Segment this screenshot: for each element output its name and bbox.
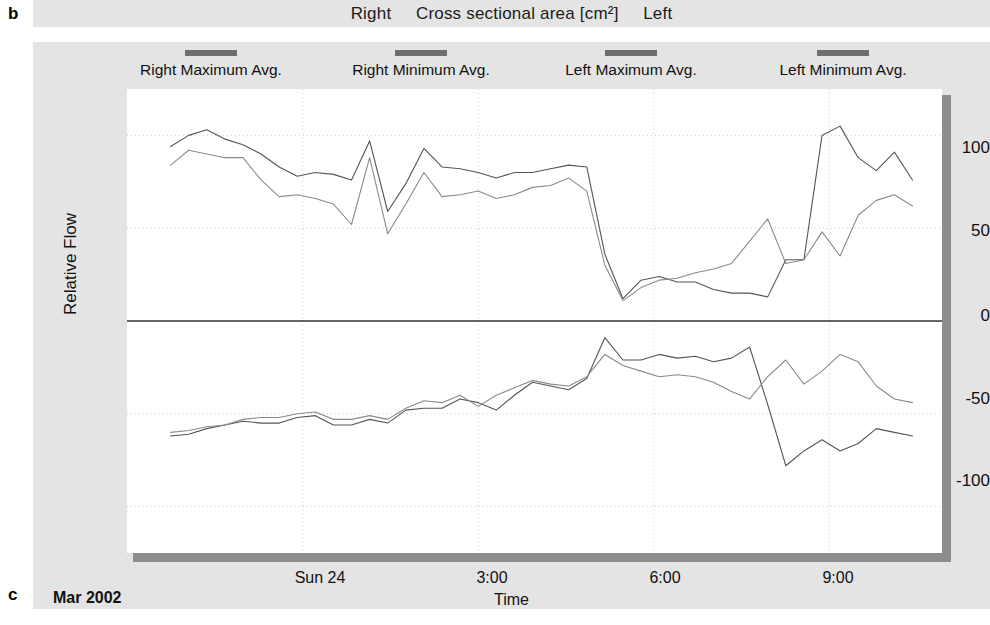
plot-shadow-right	[942, 95, 951, 559]
chart-svg	[127, 89, 942, 553]
x-tick-sun-24: Sun 24	[260, 569, 380, 587]
legend-swatch-left-minimum-avg	[817, 50, 869, 56]
y-tick-50: 50	[928, 222, 990, 239]
chart-panel: Right Maximum Avg. Right Minimum Avg. Le…	[33, 42, 990, 609]
x-axis-label: Time	[33, 591, 990, 609]
legend-item-right-minimum-avg[interactable]: Right Minimum Avg.	[301, 50, 541, 78]
legend-label-left-maximum-avg: Left Maximum Avg.	[511, 62, 751, 78]
y-tick-minus-50: -50	[928, 390, 990, 407]
panel-b-header-strip: Right Cross sectional area [cm²] Left	[33, 0, 990, 27]
legend-label-right-minimum-avg: Right Minimum Avg.	[301, 62, 541, 78]
y-tick-100: 100	[928, 139, 990, 156]
date-label: Mar 2002	[53, 589, 122, 607]
x-tick-6-00: 6:00	[605, 569, 725, 587]
legend-item-left-minimum-avg[interactable]: Left Minimum Avg.	[723, 50, 963, 78]
y-tick-minus-100: -100	[928, 472, 990, 489]
panel-label-c: c	[8, 585, 17, 605]
legend-swatch-left-maximum-avg	[605, 50, 657, 56]
legend-label-right-maximum-avg: Right Maximum Avg.	[91, 62, 331, 78]
legend-swatch-right-minimum-avg	[395, 50, 447, 56]
legend-swatch-right-maximum-avg	[185, 50, 237, 56]
legend-item-left-maximum-avg[interactable]: Left Maximum Avg.	[511, 50, 751, 78]
y-axis-label: Relative Flow	[61, 164, 81, 364]
plot-shadow-bottom	[133, 553, 951, 562]
panel-b-title: Right Cross sectional area [cm²] Left	[33, 0, 990, 27]
x-tick-3-00: 3:00	[432, 569, 552, 587]
legend-item-right-maximum-avg[interactable]: Right Maximum Avg.	[91, 50, 331, 78]
legend-label-left-minimum-avg: Left Minimum Avg.	[723, 62, 963, 78]
x-tick-9-00: 9:00	[778, 569, 898, 587]
y-tick-0: 0	[928, 307, 990, 324]
panel-label-b: b	[8, 0, 18, 27]
